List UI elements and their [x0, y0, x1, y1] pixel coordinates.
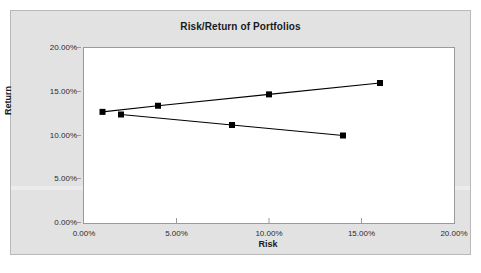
x-axis-tick-labels: 0.00%5.00%10.00%15.00%20.00%	[83, 225, 455, 239]
data-point-marker	[340, 133, 346, 139]
y-axis-tick-label: 0.00%	[15, 218, 77, 227]
series-line	[103, 83, 381, 112]
x-axis-tick-label: 15.00%	[332, 229, 392, 238]
chart-title: Risk/Return of Portfolios	[11, 21, 470, 32]
x-axis-tick-label: 10.00%	[239, 229, 299, 238]
x-axis-tick-label: 5.00%	[147, 229, 207, 238]
data-series	[100, 80, 384, 115]
data-point-marker	[155, 103, 161, 109]
y-axis-tick-label: 15.00%	[15, 86, 77, 95]
data-point-marker	[100, 109, 106, 115]
y-axis-tick-mark	[77, 135, 81, 136]
y-axis-tick-label: 20.00%	[15, 43, 77, 52]
x-axis-tick-label: 0.00%	[54, 229, 114, 238]
x-axis-title: Risk	[83, 239, 453, 249]
y-axis-tick-label: 5.00%	[15, 174, 77, 183]
y-axis-tick-label: 10.00%	[15, 130, 77, 139]
y-axis-tick-mark	[77, 178, 81, 179]
y-axis-tick-mark	[77, 47, 81, 48]
y-axis-tick-mark	[77, 222, 81, 223]
data-point-marker	[377, 80, 383, 86]
data-point-marker	[266, 91, 272, 97]
plot-svg	[84, 48, 454, 223]
x-axis-tick-label: 20.00%	[424, 229, 481, 238]
series-layer	[100, 80, 384, 139]
y-axis-tick-mark	[77, 91, 81, 92]
y-axis-tick-labels: 0.00%5.00%10.00%15.00%20.00%	[11, 47, 77, 222]
data-point-marker	[118, 112, 124, 118]
chart-container: Risk/Return of Portfolios Return 0.00%5.…	[10, 10, 471, 255]
plot-area	[83, 47, 455, 224]
data-series	[118, 112, 346, 139]
data-point-marker	[229, 122, 235, 128]
